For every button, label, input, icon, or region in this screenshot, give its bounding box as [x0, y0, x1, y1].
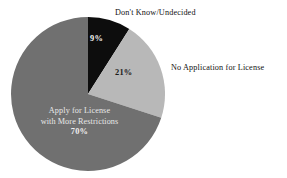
- pie-chart-figure: Don't Know/Undecided No Application for …: [0, 0, 287, 178]
- pie-label-apply-for-license: Apply for License with More Restrictions: [17, 106, 142, 127]
- pie-value-dont-know: 9%: [90, 34, 103, 43]
- pie-label-no-application: No Application for License: [171, 63, 264, 72]
- pie-label-dont-know: Don't Know/Undecided: [115, 8, 196, 17]
- pie-label-apply-line-1: Apply for License: [17, 106, 142, 117]
- pie-svg: [10, 16, 166, 172]
- pie-value-apply-for-license: 70%: [17, 127, 142, 136]
- pie-value-no-application: 21%: [115, 68, 132, 77]
- pie-chart-graphic: [10, 16, 166, 172]
- pie-label-apply-line-2: with More Restrictions: [17, 117, 142, 128]
